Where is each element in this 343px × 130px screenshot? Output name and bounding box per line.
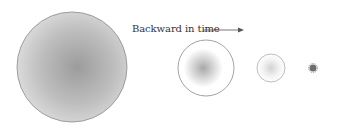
expanding-universe-diagram: Backward in time — [0, 0, 343, 130]
universe-circle-largest — [17, 12, 127, 122]
universe-circle-small — [257, 54, 285, 82]
diagram-canvas — [0, 0, 343, 130]
universe-circle-medium — [178, 40, 234, 96]
universe-point-icon — [309, 64, 318, 73]
caption-backward-in-time: Backward in time — [132, 23, 220, 34]
